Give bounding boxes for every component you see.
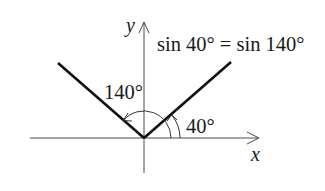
sine-angle-diagram: y x sin 40° = sin 140° 140° 40° (0, 0, 325, 191)
y-axis-label: y (124, 14, 135, 37)
angle-label-140: 140° (104, 81, 143, 103)
angle-label-40: 40° (186, 115, 215, 137)
x-axis-label: x (250, 143, 260, 165)
sine-equation: sin 40° = sin 140° (157, 33, 305, 55)
